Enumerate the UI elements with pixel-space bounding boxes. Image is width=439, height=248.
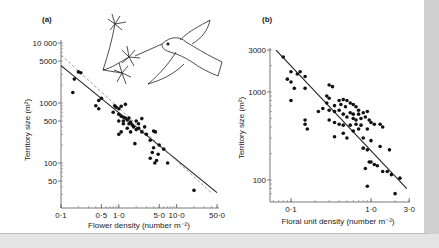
data-point — [124, 103, 128, 107]
data-point — [281, 55, 285, 59]
data-point — [303, 118, 307, 122]
data-point — [337, 108, 341, 112]
data-point — [327, 118, 331, 122]
data-point — [117, 119, 121, 123]
data-point — [386, 170, 390, 174]
data-point — [339, 103, 343, 107]
data-point — [345, 136, 349, 140]
data-point — [357, 108, 361, 112]
data-point — [317, 110, 321, 114]
data-point — [333, 135, 337, 139]
data-point — [341, 123, 345, 127]
data-point — [117, 133, 121, 137]
data-point — [296, 72, 300, 76]
data-point — [327, 96, 331, 100]
data-point — [369, 139, 373, 143]
data-point — [390, 173, 394, 177]
data-point — [361, 146, 365, 150]
data-point — [100, 96, 104, 100]
dashed-fit-line — [61, 55, 211, 193]
y-tick-label: 100 — [253, 176, 267, 185]
data-point — [359, 123, 363, 127]
data-point — [97, 107, 101, 111]
y-tick-label: 3000 — [248, 46, 266, 55]
y-tick-label: 100 — [44, 159, 58, 168]
data-point — [341, 98, 345, 102]
data-point — [325, 101, 329, 105]
panel-a-x-ticks: 0·10·51·05·010·050·0 — [55, 204, 225, 220]
data-point — [298, 70, 302, 74]
panel-b: (b) 30001000100 0·11·03·0 Floral unit de… — [237, 15, 416, 226]
data-point — [306, 127, 310, 131]
data-point — [378, 145, 382, 149]
panel-b-y-ticks: 30001000100 — [248, 46, 270, 185]
data-point — [148, 138, 152, 142]
data-point — [354, 118, 358, 122]
x-tick-label: 3·0 — [403, 205, 415, 214]
panel-a-y-label: Territory size (m²) — [23, 99, 32, 162]
data-point — [369, 160, 373, 164]
x-tick-label: 0·1 — [285, 205, 297, 214]
data-point — [348, 123, 352, 127]
data-point — [303, 75, 307, 79]
x-tick-label: 10·0 — [169, 211, 186, 220]
data-point — [341, 131, 345, 135]
y-tick-label: 500 — [44, 117, 58, 126]
data-point — [361, 136, 365, 140]
panel-b-regression-line — [276, 50, 407, 189]
y-tick-label: 10 000 — [33, 39, 58, 48]
panel-b-x-label: Floral unit density (number m⁻²) — [282, 217, 395, 226]
data-point — [122, 122, 126, 126]
data-point — [327, 108, 331, 112]
data-point — [388, 148, 392, 152]
data-point — [134, 128, 138, 132]
data-point — [333, 110, 337, 114]
hummingbird-illustration-icon — [103, 14, 222, 84]
data-point — [378, 122, 382, 126]
data-point — [327, 83, 331, 87]
data-point — [79, 71, 83, 75]
data-point — [125, 126, 129, 130]
data-point — [127, 122, 131, 126]
data-point — [333, 121, 337, 125]
data-point — [361, 111, 365, 115]
panel-a-x-label: Flower density (number m⁻²) — [88, 221, 190, 230]
data-point — [166, 161, 170, 165]
panel-a-y-ticks: 10 0005000100050010050 — [33, 39, 61, 186]
data-point — [344, 105, 348, 109]
data-point — [148, 156, 152, 160]
data-point — [366, 148, 370, 152]
data-point — [366, 184, 370, 188]
data-point — [303, 87, 307, 91]
solid-fit-line — [276, 50, 407, 189]
data-point — [151, 151, 155, 155]
panel-b-x-ticks: 0·11·03·0 — [285, 198, 415, 214]
panel-b-label: (b) — [262, 15, 273, 24]
data-point — [152, 146, 156, 150]
data-point — [359, 117, 363, 121]
data-point — [341, 112, 345, 116]
data-point — [333, 104, 337, 108]
data-point — [137, 122, 141, 126]
data-point — [289, 70, 293, 74]
data-point — [192, 189, 196, 193]
data-point — [145, 133, 149, 137]
y-tick-label: 1000 — [39, 99, 57, 108]
data-point — [381, 125, 385, 129]
data-point — [289, 99, 293, 103]
data-point — [293, 87, 297, 91]
panel-b-y-label: Territory size (m²) — [237, 97, 246, 160]
data-point — [381, 170, 385, 174]
panel-a: (a) 10 0005000100050010050 0·10·51·05·01… — [23, 14, 226, 230]
data-point — [289, 80, 293, 84]
data-point — [337, 99, 341, 103]
data-point — [143, 125, 147, 129]
data-point — [303, 122, 307, 126]
y-tick-label: 5000 — [39, 57, 57, 66]
data-point — [393, 192, 397, 196]
data-point — [156, 152, 160, 156]
data-point — [369, 121, 373, 125]
panel-b-data-points — [281, 55, 401, 195]
data-point — [366, 110, 370, 114]
x-tick-label: 50·0 — [209, 211, 226, 220]
